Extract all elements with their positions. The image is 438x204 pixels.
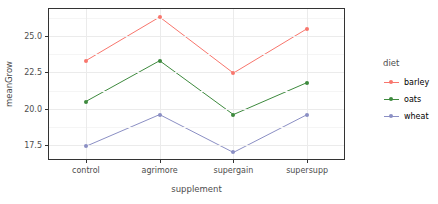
plot-series-svg: [49, 9, 344, 159]
gridline-major: [49, 72, 344, 73]
y-axis-tick-label: 17.5: [2, 141, 42, 150]
legend-entry-wheat: wheat: [383, 108, 429, 125]
gridline-minor: [49, 127, 344, 128]
data-point-oats-supersupp: [305, 81, 309, 85]
plot-panel: [48, 8, 345, 160]
gridline-vertical: [160, 9, 161, 159]
data-point-barley-control: [84, 59, 88, 63]
y-axis-tick-label: 22.5: [2, 68, 42, 77]
gridline-minor: [49, 91, 344, 92]
legend: diet barleyoatswheat: [383, 58, 429, 125]
data-point-wheat-supergain: [231, 150, 235, 154]
legend-key-dot: [389, 80, 393, 84]
x-axis-tick-mark: [233, 160, 234, 163]
line-chart: meanGrow 17.520.022.525.0 controlagrimor…: [0, 0, 438, 204]
series-line-barley: [86, 17, 307, 73]
gridline-vertical: [233, 9, 234, 159]
legend-key-dot: [389, 114, 393, 118]
x-axis-tick-label: control: [72, 166, 100, 175]
legend-label: oats: [404, 95, 421, 104]
y-axis-tick-label: 20.0: [2, 104, 42, 113]
legend-key-oats: [383, 91, 400, 108]
legend-key-dot: [389, 97, 393, 101]
gridline-major: [49, 36, 344, 37]
data-point-wheat-supersupp: [305, 113, 309, 117]
x-axis-tick-mark: [86, 160, 87, 163]
gridline-minor: [49, 18, 344, 19]
x-axis-title-text: supplement: [171, 184, 221, 194]
gridline-vertical: [86, 9, 87, 159]
legend-key-barley: [383, 74, 400, 91]
data-point-barley-supersupp: [305, 27, 309, 31]
x-axis-tick-label: agrimore: [141, 166, 177, 175]
legend-title: diet: [383, 58, 429, 68]
legend-key-wheat: [383, 108, 400, 125]
data-point-wheat-control: [84, 144, 88, 148]
series-line-oats: [86, 61, 307, 115]
legend-entries: barleyoatswheat: [383, 74, 429, 125]
gridline-major: [49, 145, 344, 146]
series-line-wheat: [86, 115, 307, 153]
legend-label: wheat: [404, 112, 429, 121]
legend-entry-oats: oats: [383, 91, 429, 108]
x-axis-title: supplement: [48, 184, 345, 194]
x-axis-tick-mark: [307, 160, 308, 163]
x-axis-tick-label: supersupp: [286, 166, 328, 175]
y-axis-tick-label: 25.0: [2, 31, 42, 40]
data-point-oats-supergain: [231, 113, 235, 117]
x-axis-tick-mark: [160, 160, 161, 163]
x-axis-tick-label: supergain: [214, 166, 254, 175]
gridline-minor: [49, 54, 344, 55]
data-point-oats-control: [84, 100, 88, 104]
data-point-wheat-agrimore: [158, 113, 162, 117]
gridline-major: [49, 109, 344, 110]
legend-label: barley: [404, 78, 429, 87]
data-point-barley-agrimore: [158, 15, 162, 19]
legend-entry-barley: barley: [383, 74, 429, 91]
data-point-oats-agrimore: [158, 59, 162, 63]
data-point-barley-supergain: [231, 71, 235, 75]
